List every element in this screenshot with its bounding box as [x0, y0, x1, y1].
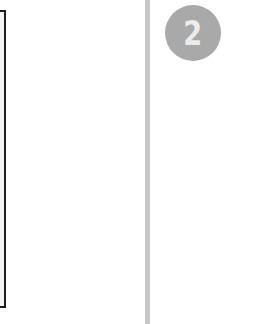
step-number-badge: 2 — [165, 5, 221, 61]
left-content-frame — [0, 10, 6, 308]
step-number-label: 2 — [184, 16, 203, 50]
